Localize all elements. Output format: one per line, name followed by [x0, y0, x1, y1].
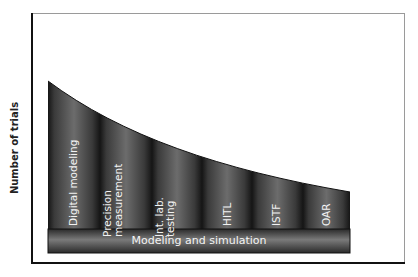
column-label-oar: OAR	[321, 203, 332, 226]
column-label-hitl: HITL	[222, 203, 233, 226]
column-label-precision-measurement: Precisionmeasurement	[102, 164, 124, 237]
diagram-canvas: Number of trials	[0, 0, 418, 277]
column-label-digital-modeling: Digital modeling	[68, 140, 79, 226]
column-label-istf: ISTF	[271, 204, 282, 226]
base-bar-label: Modeling and simulation	[48, 229, 350, 253]
